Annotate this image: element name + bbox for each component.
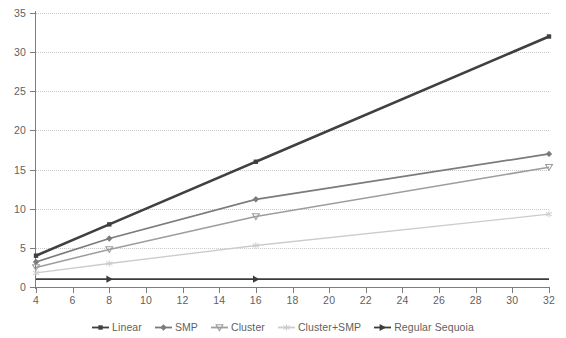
chart-legend: LinearSMPClusterCluster+SMPRegular Sequo… <box>0 318 566 336</box>
legend-label: Cluster <box>231 322 265 333</box>
y-tick-label: 35 <box>2 8 26 18</box>
y-tick-label: 10 <box>2 204 26 214</box>
legend-label: SMP <box>175 322 198 333</box>
x-tick-label: 8 <box>94 295 124 306</box>
x-tick-mark <box>329 288 330 293</box>
legend-item-smp[interactable]: SMP <box>155 322 198 333</box>
legend-label: Linear <box>112 322 142 333</box>
x-tick-label: 16 <box>241 295 271 306</box>
x-tick-mark <box>146 288 147 293</box>
x-tick-mark <box>366 288 367 293</box>
line-chart: 05101520253035 4681012141618202224262830… <box>0 0 566 338</box>
y-tick-label: 5 <box>2 243 26 253</box>
x-tick-mark <box>73 288 74 293</box>
x-tick-label: 20 <box>314 295 344 306</box>
triangle-right-marker-icon <box>374 322 391 333</box>
x-tick-label: 26 <box>424 295 454 306</box>
legend-label: Regular Sequoia <box>394 322 474 333</box>
gridline <box>36 248 549 249</box>
legend-item-linear[interactable]: Linear <box>92 322 142 333</box>
y-tick-label: 20 <box>2 125 26 135</box>
x-tick-label: 14 <box>204 295 234 306</box>
legend-item-regular-sequoia[interactable]: Regular Sequoia <box>374 322 474 333</box>
x-tick-label: 30 <box>497 295 527 306</box>
diamond-marker-icon <box>155 322 172 333</box>
y-tick-label: 15 <box>2 165 26 175</box>
x-tick-mark <box>36 288 37 293</box>
gridline <box>36 170 549 171</box>
gridline <box>36 52 549 53</box>
x-tick-label: 10 <box>131 295 161 306</box>
y-tick-label: 30 <box>2 47 26 57</box>
square-marker-icon <box>92 322 109 333</box>
gridline <box>36 91 549 92</box>
y-tick-label: 25 <box>2 86 26 96</box>
asterisk-marker-icon <box>278 322 295 333</box>
plot-area <box>36 13 549 287</box>
gridline <box>36 13 549 14</box>
x-tick-label: 22 <box>351 295 381 306</box>
x-tick-mark <box>293 288 294 293</box>
legend-item-cluster-smp[interactable]: Cluster+SMP <box>278 322 361 333</box>
x-tick-label: 28 <box>461 295 491 306</box>
gridline <box>36 130 549 131</box>
x-tick-label: 32 <box>534 295 564 306</box>
x-tick-mark <box>183 288 184 293</box>
x-tick-mark <box>549 288 550 293</box>
x-tick-mark <box>439 288 440 293</box>
legend-item-cluster[interactable]: Cluster <box>211 322 265 333</box>
x-tick-mark <box>512 288 513 293</box>
x-tick-label: 12 <box>168 295 198 306</box>
x-tick-mark <box>402 288 403 293</box>
legend-label: Cluster+SMP <box>298 322 361 333</box>
x-tick-mark <box>109 288 110 293</box>
x-tick-mark <box>219 288 220 293</box>
x-tick-label: 18 <box>278 295 308 306</box>
x-tick-mark <box>476 288 477 293</box>
x-tick-label: 24 <box>387 295 417 306</box>
x-tick-label: 4 <box>21 295 51 306</box>
triangle-down-marker-icon <box>211 322 228 333</box>
x-tick-mark <box>256 288 257 293</box>
y-tick-label: 0 <box>2 282 26 292</box>
gridline <box>36 209 549 210</box>
x-tick-label: 6 <box>58 295 88 306</box>
